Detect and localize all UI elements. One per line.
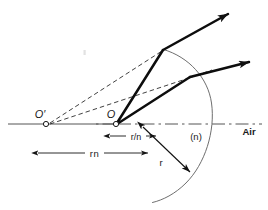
label-object-point-o: O bbox=[107, 108, 116, 120]
refracted-rays-group bbox=[163, 14, 249, 77]
incident-ray-1 bbox=[117, 50, 163, 123]
figure-canvas: r/n rn r O′ O (n) Air bbox=[0, 0, 268, 210]
refracted-ray-2 bbox=[190, 62, 249, 77]
label-medium-index: (n) bbox=[190, 131, 202, 142]
label-medium-air: Air bbox=[242, 126, 256, 137]
point-marker-o bbox=[113, 121, 118, 126]
dimension-r-over-n-label: r/n bbox=[131, 132, 142, 142]
label-image-point-o-prime: O′ bbox=[35, 108, 47, 120]
point-marker-o-prime bbox=[43, 121, 48, 126]
radius-label: r bbox=[159, 157, 162, 168]
radius-indicator: r bbox=[143, 127, 190, 172]
dimension-r-over-n: r/n bbox=[110, 130, 156, 142]
radius-arrow-line bbox=[143, 127, 190, 172]
incident-ray-2 bbox=[117, 77, 190, 124]
scan-artifact-speck bbox=[84, 50, 86, 55]
optics-refraction-figure: r/n rn r O′ O (n) Air bbox=[0, 0, 268, 210]
dimension-rn-label: rn bbox=[90, 148, 100, 159]
incident-rays-group bbox=[117, 50, 190, 124]
refracted-ray-1 bbox=[163, 14, 228, 50]
dimension-rn: rn bbox=[38, 147, 148, 159]
